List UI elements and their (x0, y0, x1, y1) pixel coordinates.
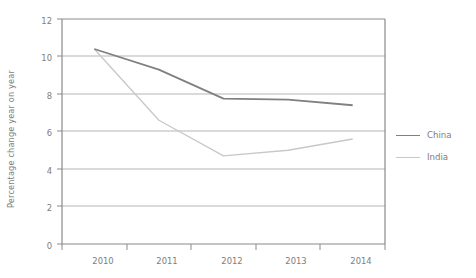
legend: China India (396, 124, 476, 168)
legend-entry-china: China (396, 124, 476, 146)
gridlines (62, 56, 385, 206)
legend-swatch-china (396, 135, 420, 136)
line-chart: Percentage change year on year 12 10 8 6… (0, 0, 476, 278)
data-line-china (94, 49, 352, 105)
legend-swatch-india (396, 157, 420, 158)
legend-label-china: China (427, 130, 452, 140)
y-axis-ticks (57, 19, 62, 244)
legend-entry-india: India (396, 146, 476, 168)
x-axis-ticks (62, 244, 385, 250)
legend-label-india: India (427, 152, 448, 162)
